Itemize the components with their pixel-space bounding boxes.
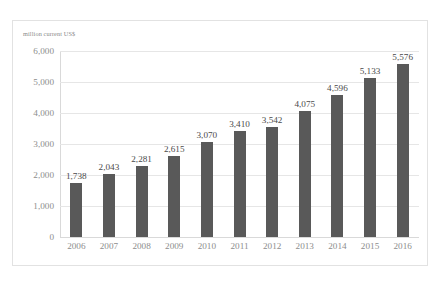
category-axis: 2006200720082009201020112012201320142015… — [60, 241, 419, 257]
bar-value-label: 5,133 — [360, 66, 381, 76]
x-axis-category-label: 2014 — [328, 241, 346, 251]
y-axis-tick-label: 3,000 — [33, 139, 54, 149]
bar-value-label: 2,281 — [131, 154, 152, 164]
gridline: 0 — [60, 237, 419, 238]
x-axis-category-label: 2011 — [230, 241, 248, 251]
x-axis-category-label: 2012 — [263, 241, 281, 251]
bar-value-label: 4,075 — [294, 99, 315, 109]
bar-value-label: 3,410 — [229, 119, 250, 129]
bar[interactable]: 3,542 — [266, 127, 278, 237]
bar-value-label: 3,542 — [262, 115, 283, 125]
bar-value-label: 2,615 — [164, 144, 185, 154]
bar[interactable]: 3,070 — [201, 142, 213, 237]
bar[interactable]: 4,596 — [331, 95, 343, 237]
bar-value-label: 5,576 — [392, 52, 413, 62]
bar-value-label: 2,043 — [99, 162, 120, 172]
bar[interactable]: 2,281 — [136, 166, 148, 237]
y-axis-tick-label: 2,000 — [33, 170, 54, 180]
gridline: 6,000 — [60, 51, 419, 52]
bar-value-label: 4,596 — [327, 83, 348, 93]
bar[interactable]: 4,075 — [299, 111, 311, 237]
x-axis-category-label: 2016 — [393, 241, 411, 251]
y-axis-tick-label: 6,000 — [33, 46, 54, 56]
x-axis-category-label: 2015 — [361, 241, 379, 251]
bar-value-label: 3,070 — [197, 130, 218, 140]
bar[interactable]: 2,615 — [168, 156, 180, 237]
y-axis-tick-label: 1,000 — [33, 201, 54, 211]
bar[interactable]: 1,738 — [70, 183, 82, 237]
x-axis-category-label: 2007 — [100, 241, 118, 251]
y-axis-tick-label: 0 — [49, 232, 54, 242]
chart-figure: million current US$ 01,0002,0003,0004,00… — [12, 20, 428, 266]
bar[interactable]: 3,410 — [234, 131, 246, 237]
bar-value-label: 1,738 — [66, 171, 87, 181]
bar[interactable]: 2,043 — [103, 174, 115, 237]
bar[interactable]: 5,576 — [397, 64, 409, 237]
x-axis-category-label: 2009 — [165, 241, 183, 251]
x-axis-category-label: 2010 — [198, 241, 216, 251]
y-axis-tick-label: 5,000 — [33, 77, 54, 87]
x-axis-category-label: 2006 — [67, 241, 85, 251]
y-axis-tick-label: 4,000 — [33, 108, 54, 118]
plot-area: 01,0002,0003,0004,0005,0006,0001,7382,04… — [60, 51, 419, 237]
bar[interactable]: 5,133 — [364, 78, 376, 237]
x-axis-category-label: 2008 — [132, 241, 150, 251]
x-axis-category-label: 2013 — [296, 241, 314, 251]
axis-unit-label: million current US$ — [23, 30, 75, 37]
